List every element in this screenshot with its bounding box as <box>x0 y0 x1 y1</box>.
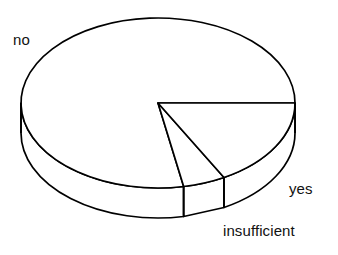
slice-label-yes: yes <box>289 181 313 196</box>
pie-chart-figure: no yes insufficient <box>0 0 338 255</box>
slice-label-insufficient: insufficient <box>223 223 295 238</box>
pie-chart-graphic <box>0 0 338 255</box>
slice-label-no: no <box>13 32 30 47</box>
